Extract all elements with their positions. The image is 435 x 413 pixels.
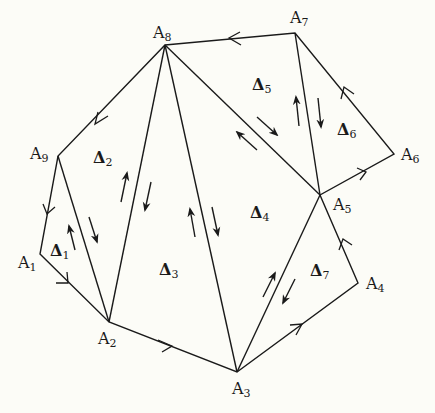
- arrow-up-icon: [296, 97, 299, 126]
- arrow-up-left-icon: [237, 132, 257, 150]
- chevron-down-left-icon: [95, 112, 108, 124]
- vertex-label-A2: A2: [98, 331, 117, 349]
- arrow-up-icon: [121, 173, 127, 202]
- vertex-label-A6: A6: [401, 147, 420, 165]
- arrow-down-icon: [318, 98, 321, 127]
- vertex-label-A4: A4: [366, 276, 385, 294]
- triangle-label-delta4: Δ4: [250, 205, 269, 223]
- vertex-label-A7: A7: [290, 10, 309, 28]
- chevron-down-right-icon: [56, 272, 68, 283]
- arrow-down-icon: [145, 182, 151, 210]
- edge-A8-A2: [109, 45, 165, 322]
- arrow-down-left-icon: [283, 279, 295, 303]
- edge-A7-A5: [295, 33, 320, 195]
- vertex-label-A5: A5: [333, 197, 352, 215]
- vertex-label-A1: A1: [18, 255, 37, 273]
- arrow-down-icon: [212, 207, 218, 235]
- chevron-up-icon: [339, 239, 352, 250]
- triangle-label-delta1: Δ1: [50, 243, 69, 261]
- arrow-down-right-icon: [257, 117, 277, 135]
- edge-A8-A5: [165, 45, 320, 195]
- vertex-label-A8: A8: [153, 25, 172, 43]
- triangle-label-delta6: Δ6: [337, 122, 356, 140]
- arrow-down-icon: [89, 217, 97, 242]
- triangle-label-delta3: Δ3: [159, 262, 178, 280]
- triangulation-diagram: [0, 0, 435, 413]
- triangle-label-delta2: Δ2: [93, 150, 112, 168]
- vertex-label-A3: A3: [232, 381, 251, 399]
- arrow-up-icon: [190, 209, 195, 237]
- triangle-label-delta7: Δ7: [310, 263, 329, 281]
- triangle-label-delta5: Δ5: [252, 77, 271, 95]
- arrow-up-icon: [69, 226, 75, 250]
- vertex-label-A9: A9: [30, 146, 49, 164]
- edge-A8-A3: [165, 45, 237, 372]
